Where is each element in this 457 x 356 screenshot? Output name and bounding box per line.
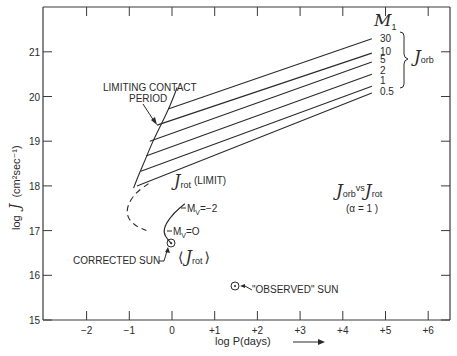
jrot-average-label: ⟨Jrot⟩	[178, 247, 210, 266]
x-axis-arrow-icon	[293, 339, 325, 345]
legend-header: M1	[373, 10, 396, 32]
x-tick-label: −2	[81, 325, 93, 336]
legend-group-label: Jorb	[411, 46, 434, 66]
jorb-line-m5	[150, 62, 372, 141]
j-rot-limit-curve	[127, 184, 148, 231]
corrected-sun-arrow-icon	[159, 247, 170, 261]
jorb-line-m1	[141, 86, 372, 171]
x-tick-label: −1	[124, 325, 136, 336]
comparison-label: JorbvsJrot	[333, 180, 383, 200]
y-tick-label: 18	[29, 181, 41, 192]
limiting-contact-label: LIMITING CONTACT	[103, 82, 197, 93]
observed-sun-marker-icon	[231, 282, 239, 290]
corrected-sun-label: CORRECTED SUN	[73, 255, 160, 266]
x-tick-label: +3	[294, 325, 306, 336]
y-tick-label: 17	[29, 226, 41, 237]
x-ticks	[87, 7, 429, 320]
y-tick-label: 20	[29, 92, 41, 103]
y-tick-labels: 15161718192021	[29, 47, 41, 326]
y-tick-label: 16	[29, 270, 41, 281]
legend-mass-label: 0.5	[380, 86, 394, 97]
legend-mass-label: 5	[380, 54, 386, 65]
legend-mass-label: 30	[380, 33, 392, 44]
jrot-limit-label: Jrot(LIMIT)	[171, 171, 226, 190]
mv-zero-label: MV=O	[173, 226, 200, 239]
angular-momentum-chart: −2−10+1+2+3+4+5+6 15161718192021 log P(d…	[0, 0, 457, 356]
jorb-line-m0_5	[137, 93, 372, 186]
limiting-period-label: PERIOD	[129, 93, 167, 104]
y-tick-label: 21	[29, 47, 41, 58]
corrected-sun-marker-icon	[167, 239, 175, 247]
legend-mass-labels: 30105210.5	[380, 33, 394, 97]
y-tick-label: 15	[29, 315, 41, 326]
observed-sun-arrow-icon	[240, 284, 252, 290]
x-tick-label: +5	[380, 325, 392, 336]
y-tick-label: 19	[29, 136, 41, 147]
x-tick-label: 0	[169, 325, 175, 336]
jorb-lines	[137, 39, 372, 186]
observed-sun-label: "OBSERVED" SUN	[252, 284, 338, 295]
mv-minus2-label: MV=−2	[187, 203, 218, 216]
y-axis-label: log J (cm²sec⁻¹)	[7, 145, 23, 230]
legend-brace-icon	[400, 32, 408, 88]
x-tick-label: +6	[422, 325, 434, 336]
legend-mass-label: 1	[380, 75, 386, 86]
svg-text:log J (cm²sec⁻¹): log J (cm²sec⁻¹)	[7, 145, 23, 230]
x-tick-label: +4	[337, 325, 349, 336]
alpha-label: (α = 1 )	[346, 203, 378, 214]
limiting-arrow-icon	[143, 104, 157, 125]
x-axis-label: log P(days)	[215, 335, 271, 347]
